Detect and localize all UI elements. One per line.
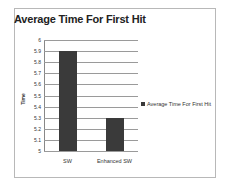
bar [59,51,77,151]
legend-swatch [141,102,145,106]
category-label: SW [44,158,91,164]
y-tick-label: 5.4 [28,104,41,110]
y-tick-label: 5.5 [28,93,41,99]
y-tick-label: 5.8 [28,59,41,65]
plot-area: 65.95.85.75.65.55.45.35.25.15 [44,40,138,151]
y-tick-label: 5 [28,148,41,154]
y-axis-label: Time [20,93,26,105]
legend-label: Average Time For First Hit [147,101,211,107]
bar [106,118,124,151]
gridline [44,40,138,41]
y-tick-label: 5.6 [28,81,41,87]
y-tick-label: 5.2 [28,126,41,132]
y-tick-label: 5.3 [28,115,41,121]
legend: Average Time For First Hit [141,101,211,107]
y-tick-label: 6 [28,37,41,43]
y-tick-label: 5.9 [28,48,41,54]
chart-title: Average Time For First Hit [14,13,144,25]
y-tick-label: 5.1 [28,137,41,143]
category-label: Enhanced SW [91,158,138,164]
y-tick-label: 5.7 [28,70,41,76]
gridline [44,151,138,152]
